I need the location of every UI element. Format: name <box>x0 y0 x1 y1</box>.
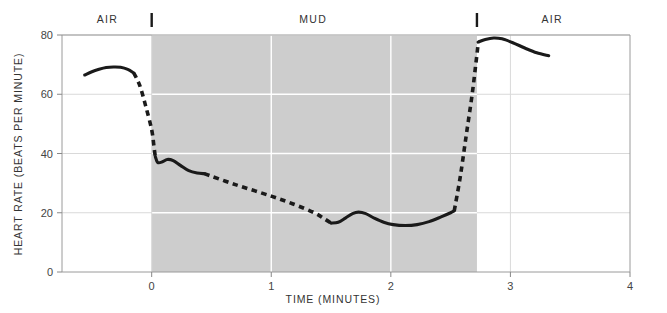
x-tick-label: 2 <box>388 280 394 292</box>
y-tick-label: 40 <box>41 148 53 160</box>
x-axis-title: TIME (MINUTES) <box>286 293 381 305</box>
phase-label-left: AIR <box>97 13 118 25</box>
phase-label-middle: MUD <box>299 13 327 25</box>
y-tick-label: 60 <box>41 88 53 100</box>
y-tick-label: 0 <box>47 266 53 278</box>
x-tick-label: 4 <box>627 280 633 292</box>
x-tick-label: 1 <box>268 280 274 292</box>
y-axis-title: HEART RATE (BEATS PER MINUTE) <box>12 53 24 256</box>
chart-figure: 020406080 01234 AIRMUDAIR TIME (MINUTES)… <box>0 0 667 313</box>
phase-label-right: AIR <box>542 13 563 25</box>
x-tick-label: 3 <box>507 280 513 292</box>
y-tick-label: 20 <box>41 207 53 219</box>
chart-svg: 020406080 01234 AIRMUDAIR TIME (MINUTES)… <box>0 0 667 313</box>
x-tick-label: 0 <box>149 280 155 292</box>
y-tick-label: 80 <box>41 29 53 41</box>
